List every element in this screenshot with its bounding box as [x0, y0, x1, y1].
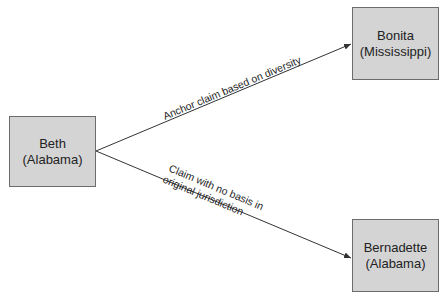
node-name: Beth — [39, 136, 66, 152]
node-state: (Alabama) — [23, 152, 83, 168]
node-beth: Beth (Alabama) — [9, 116, 96, 187]
edge-label-anchor-claim: Anchor claim based on diversity — [161, 53, 303, 122]
node-bernadette: Bernadette (Alabama) — [352, 219, 439, 292]
node-name: Bernadette — [364, 240, 428, 256]
node-state: (Alabama) — [366, 256, 426, 272]
edge-beth-to-bonita: Anchor claim based on diversity — [96, 44, 351, 151]
node-state: (Mississippi) — [360, 44, 432, 60]
diagram-canvas: Anchor claim based on diversity Claim wi… — [0, 0, 445, 301]
node-name: Bonita — [377, 28, 414, 44]
node-bonita: Bonita (Mississippi) — [352, 7, 439, 80]
edge-beth-to-bernadette: Claim with no basis in original jurisdic… — [96, 151, 351, 258]
